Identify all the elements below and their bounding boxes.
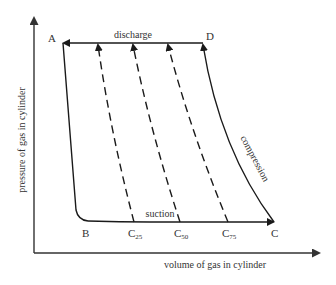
point-a-label: A: [48, 32, 56, 44]
suction-label: suction: [146, 208, 175, 219]
x-axis-label: volume of gas in cylinder: [164, 259, 267, 270]
point-c25-label: C25: [128, 227, 143, 241]
point-c-label: C: [271, 227, 278, 239]
compression-curve: [203, 45, 274, 222]
compression-label: compression: [238, 133, 271, 183]
dashed-curve-c75: [168, 45, 228, 222]
pv-diagram: pressure of gas in cylinder volume of ga…: [0, 0, 336, 285]
dashed-curve-c25: [98, 45, 134, 222]
point-c75-label: C75: [222, 227, 237, 241]
axes: [34, 18, 319, 253]
point-b-label: B: [82, 227, 89, 239]
point-d-label: D: [206, 30, 214, 42]
dashed-curve-c50: [133, 45, 180, 222]
point-c50-label: C50: [174, 227, 189, 241]
discharge-label: discharge: [114, 29, 153, 40]
y-axis-label: pressure of gas in cylinder: [16, 87, 27, 193]
expansion-curve: [63, 43, 88, 221]
